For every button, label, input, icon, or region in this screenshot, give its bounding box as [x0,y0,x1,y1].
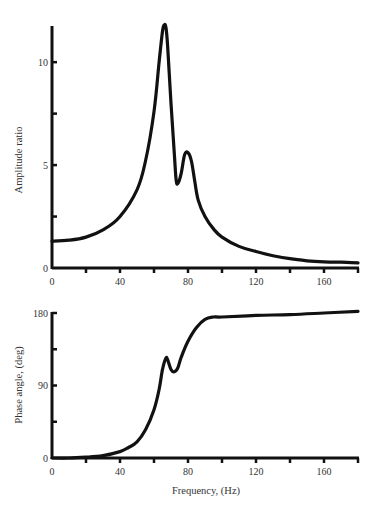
frequency-response-figure: 040801201600510 Amplitude ratio 04080120… [0,0,377,513]
x-tick-label: 0 [50,466,55,477]
amplitude-axes: 040801201600510 [38,26,359,287]
x-tick-label: 80 [183,276,193,287]
x-tick-label: 160 [317,466,332,477]
y-tick-label: 180 [33,308,48,319]
phase-angle-chart: 04080120160090180 Phase angle, (deg) Fre… [13,308,359,498]
phase-axes: 04080120160090180 [33,308,359,478]
frequency-x-axis-title: Frequency, (Hz) [172,485,241,497]
y-tick-label: 90 [38,380,48,391]
x-tick-label: 80 [183,466,193,477]
x-tick-label: 40 [115,466,125,477]
x-tick-label: 40 [115,276,125,287]
y-tick-label: 10 [38,57,48,68]
amplitude-curve [52,24,358,262]
x-tick-label: 160 [317,276,332,287]
y-tick-label: 5 [43,160,48,171]
amplitude-y-axis-title: Amplitude ratio [13,127,24,194]
phase-curve [52,311,358,458]
amplitude-ratio-chart: 040801201600510 Amplitude ratio [13,24,359,287]
x-tick-label: 0 [50,276,55,287]
x-tick-label: 120 [249,276,264,287]
phase-y-axis-title: Phase angle, (deg) [13,346,25,424]
x-tick-label: 120 [249,466,264,477]
y-tick-label: 0 [43,453,48,464]
y-tick-label: 0 [43,263,48,274]
